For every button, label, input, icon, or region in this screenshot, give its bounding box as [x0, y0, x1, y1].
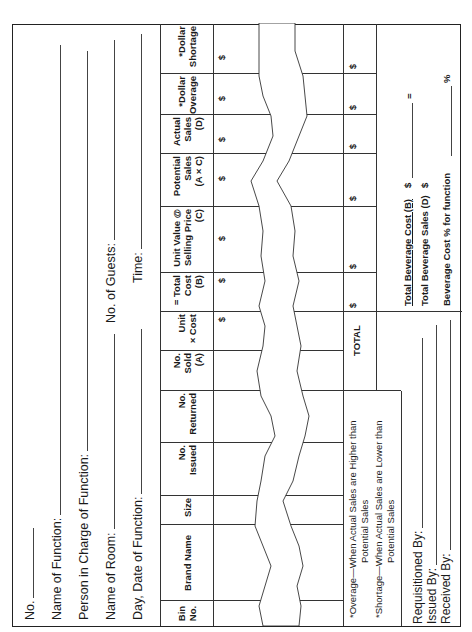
col-header-unit-value: Unit Value @ Selling Price (C): [161, 207, 213, 273]
field-room-name[interactable]: Name of Room:: [104, 334, 118, 620]
field-person-in-charge-label: Person in Charge of Function:: [77, 454, 91, 620]
footnote-overage-line2: Potential Sales: [359, 393, 371, 618]
field-room-name-label: Name of Room:: [104, 532, 118, 620]
field-time[interactable]: Time:: [131, 34, 145, 283]
cell-total-cost[interactable]: $: [217, 278, 227, 283]
cell-unit-value[interactable]: $: [217, 236, 227, 241]
cell-dollar-overage[interactable]: $: [217, 96, 227, 101]
summary-equals: =: [404, 93, 415, 99]
col-header-no-issued: No. Issued: [161, 443, 213, 496]
field-function-name-line[interactable]: [59, 45, 61, 515]
col-header-unit-cost: Unit × Cost: [161, 312, 213, 351]
sig-requisitioned-by-line[interactable]: [422, 338, 423, 528]
field-number[interactable]: No.: [23, 528, 37, 620]
footnote-overage: *Overage—When Actual Sales are Higher th…: [347, 393, 371, 618]
total-potential-sales[interactable]: $: [348, 196, 358, 201]
footnote-shortage-line2: Potential Sales: [385, 393, 397, 618]
col-header-brand-name: Brand Name: [161, 525, 213, 601]
total-dollar-overage[interactable]: $: [348, 105, 358, 110]
sig-received-by[interactable]: Received By:: [440, 320, 453, 624]
col-header-dollar-shortage: *Dollar Shortage: [161, 24, 213, 74]
summary-cost-symbol: $: [402, 183, 413, 188]
footnote-box-bottom-border: [401, 391, 402, 626]
col-header-bin-no: Bin No.: [161, 601, 213, 626]
col-header-total-cost: = Total Cost (B): [161, 273, 213, 312]
field-number-label: No.: [23, 601, 37, 620]
summary-pct-label: Beverage Cost % for function: [441, 173, 452, 306]
summary-cost-label: Total Beverage Cost (B): [402, 199, 413, 306]
total-total-cost[interactable]: $: [348, 303, 358, 308]
sig-issued-by-line[interactable]: [436, 325, 437, 565]
total-unit-value[interactable]: $: [348, 264, 358, 269]
beverage-requisition-form: No. Name of Function: Person in Charge o…: [12, 24, 461, 627]
summary-sales-label: Total Beverage Sales (D): [419, 195, 430, 306]
col-header-size: Size: [161, 496, 213, 525]
col-header-no-sold: No. Sold (A): [161, 351, 213, 391]
summary-box-left-border: [376, 311, 462, 312]
sig-issued-by-label: Issued By:: [426, 568, 439, 624]
cell-dollar-shortage[interactable]: $: [217, 55, 227, 60]
footnote-overage-line1: *Overage—When Actual Sales are Higher th…: [347, 393, 359, 618]
cell-actual-sales[interactable]: $: [217, 137, 227, 142]
field-time-label: Time:: [131, 252, 145, 283]
summary-pct-line[interactable]: [451, 86, 452, 156]
summary-sales-symbol: $: [419, 183, 430, 188]
sig-received-by-line[interactable]: [450, 320, 451, 550]
field-guest-count[interactable]: No. of Guests:: [104, 40, 118, 323]
sig-requisitioned-by-label: Requisitioned By:: [412, 531, 425, 624]
cell-unit-cost[interactable]: $: [217, 317, 227, 322]
summary-cost-line[interactable]: [412, 103, 413, 178]
summary-box-top-border: [376, 24, 377, 391]
field-function-name[interactable]: Name of Function:: [50, 45, 64, 620]
field-guest-count-line[interactable]: [113, 40, 115, 240]
sig-received-by-label: Received By:: [440, 553, 453, 624]
field-day-date-label: Day, Date of Function:: [131, 497, 145, 620]
sig-issued-by[interactable]: Issued By:: [426, 325, 439, 624]
field-time-line[interactable]: [140, 34, 142, 249]
summary-pct-symbol: %: [441, 75, 452, 83]
field-person-in-charge[interactable]: Person in Charge of Function:: [77, 51, 91, 620]
cell-potential-sales[interactable]: $: [217, 176, 227, 181]
field-guest-count-label: No. of Guests:: [104, 243, 118, 323]
field-person-in-charge-line[interactable]: [86, 51, 88, 451]
footnote-shortage: *Shortage—When Actual Sales are Lower th…: [373, 393, 397, 618]
field-number-line[interactable]: [32, 528, 34, 598]
field-day-date-line[interactable]: [140, 329, 142, 494]
col-header-actual-sales: Actual Sales (D): [161, 115, 213, 154]
col-header-dollar-overage: *Dollar Overage: [161, 74, 213, 115]
total-label: TOTAL: [351, 325, 362, 356]
field-day-date[interactable]: Day, Date of Function:: [131, 329, 145, 620]
total-dollar-shortage[interactable]: $: [348, 64, 358, 69]
field-room-name-line[interactable]: [113, 334, 115, 529]
total-actual-sales[interactable]: $: [348, 144, 358, 149]
field-function-name-label: Name of Function:: [50, 518, 64, 620]
col-header-potential-sales: Potential Sales (A × C): [161, 154, 213, 207]
sig-requisitioned-by[interactable]: Requisitioned By:: [412, 338, 425, 624]
footnote-shortage-line1: *Shortage—When Actual Sales are Lower th…: [373, 393, 385, 618]
col-header-no-returned: No. Returned: [161, 391, 213, 443]
